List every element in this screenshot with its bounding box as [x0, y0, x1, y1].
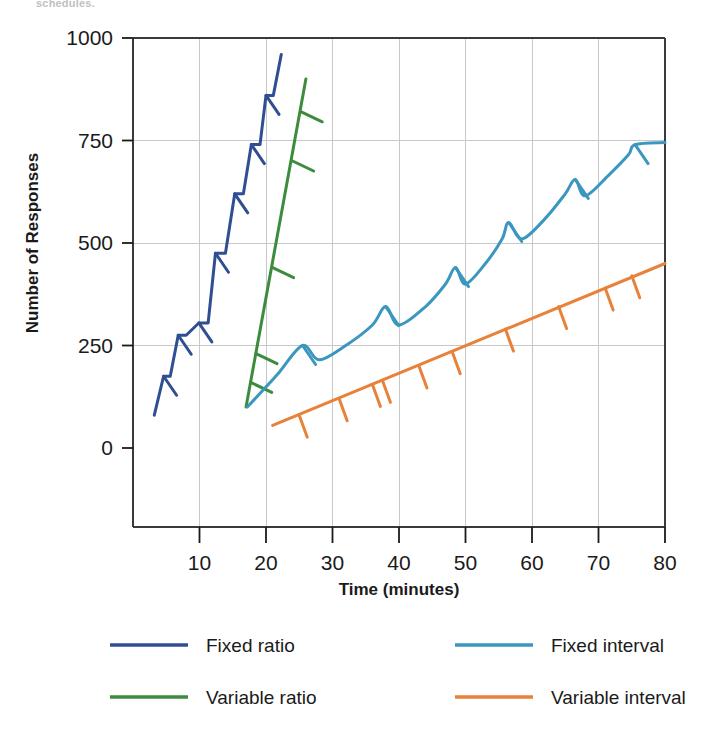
- series-line: [154, 54, 281, 415]
- x-tick-label: 60: [520, 551, 543, 574]
- chart-legend: Fixed ratioFixed intervalVariable ratioV…: [110, 635, 686, 708]
- reinforcement-mark: [605, 288, 613, 310]
- legend-item-variable-ratio[interactable]: Variable ratio: [110, 687, 317, 708]
- y-tick-label: 500: [78, 231, 113, 254]
- legend-item-fixed-ratio[interactable]: Fixed ratio: [110, 635, 295, 656]
- legend-item-fixed-interval[interactable]: Fixed interval: [455, 635, 664, 656]
- cumulative-response-chart: 02505007501000 1020304050607080 Number o…: [0, 0, 701, 741]
- reinforcement-mark: [273, 268, 294, 278]
- y-tick-label: 0: [101, 436, 113, 459]
- reinforcement-mark: [559, 307, 567, 329]
- reinforcement-mark: [632, 276, 640, 298]
- series-line: [247, 143, 665, 407]
- reinforcement-mark: [251, 145, 264, 164]
- reinforcement-mark: [293, 161, 314, 171]
- y-axis-tick-labels: 02505007501000: [66, 26, 113, 459]
- reinforcement-mark: [419, 366, 427, 388]
- reinforcement-mark: [299, 415, 307, 437]
- reinforcement-mark: [505, 329, 513, 351]
- x-axis-title: Time (minutes): [339, 580, 460, 599]
- x-axis-ticks: [200, 527, 666, 543]
- reinforcement-mark: [386, 307, 399, 326]
- legend-label: Variable interval: [551, 687, 686, 708]
- y-tick-label: 250: [78, 334, 113, 357]
- x-tick-label: 10: [188, 551, 211, 574]
- reinforcement-mark: [452, 352, 460, 374]
- clipped-header-text: schedules.: [36, 0, 336, 10]
- data-series-layer: [154, 54, 665, 437]
- reinforcement-mark: [199, 323, 212, 342]
- x-tick-label: 40: [387, 551, 410, 574]
- reinforcement-mark: [509, 223, 522, 242]
- series-variable-interval: [273, 264, 665, 438]
- y-axis-ticks: [122, 38, 133, 448]
- reinforcement-mark: [235, 194, 248, 213]
- legend-label: Variable ratio: [206, 687, 317, 708]
- y-axis-title: Number of Responses: [23, 153, 42, 333]
- series-fixed-ratio: [154, 54, 281, 415]
- reinforcement-mark: [301, 112, 322, 122]
- series-fixed-interval: [247, 143, 665, 407]
- reinforcement-schedules-figure: schedules. 02505007501000 10203040506070…: [0, 0, 701, 741]
- legend-label: Fixed ratio: [206, 635, 295, 656]
- legend-item-variable-interval[interactable]: Variable interval: [455, 687, 686, 708]
- reinforcement-mark: [266, 95, 279, 114]
- reinforcement-mark: [164, 376, 177, 395]
- x-tick-label: 50: [454, 551, 477, 574]
- x-tick-label: 70: [587, 551, 610, 574]
- reinforcement-mark: [372, 384, 380, 406]
- y-tick-label: 1000: [66, 26, 113, 49]
- reinforcement-mark: [339, 399, 347, 421]
- reinforcement-mark: [215, 253, 228, 272]
- x-tick-label: 30: [321, 551, 344, 574]
- reinforcement-mark: [635, 145, 648, 164]
- legend-label: Fixed interval: [551, 635, 664, 656]
- reinforcement-mark: [382, 380, 390, 402]
- x-tick-label: 20: [254, 551, 277, 574]
- x-tick-label: 80: [653, 551, 676, 574]
- reinforcement-mark: [178, 335, 191, 354]
- x-axis-tick-labels: 1020304050607080: [188, 551, 677, 574]
- y-tick-label: 750: [78, 129, 113, 152]
- reinforcement-mark: [256, 354, 277, 364]
